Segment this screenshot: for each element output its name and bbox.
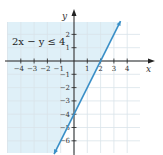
- y-tick-label: 1: [66, 44, 70, 52]
- x-tick-label: −2: [40, 65, 50, 73]
- x-tick-label: 3: [112, 65, 116, 73]
- y-tick-label: 2: [66, 31, 70, 39]
- x-axis-arrow-icon: [148, 59, 155, 64]
- y-axis-label: y: [61, 11, 68, 21]
- x-tick-label: 4: [125, 65, 130, 73]
- inequality-label: 2x − y ≤ 4: [12, 36, 66, 47]
- x-tick-label: 2: [98, 65, 102, 73]
- x-axis-label: x: [146, 64, 151, 74]
- y-axis-arrow-icon: [72, 9, 77, 16]
- x-tick-label: −4: [14, 65, 25, 73]
- x-tick-label: 1: [85, 65, 89, 73]
- y-tick-label: −3: [60, 97, 70, 105]
- y-tick-label: −1: [60, 71, 70, 79]
- y-tick-label: −2: [60, 84, 70, 92]
- x-tick-label: −3: [27, 65, 37, 73]
- graph: −4−3−2−1123421−1−2−3−4−5−6 x y 2x − y ≤ …: [0, 0, 163, 155]
- y-tick-label: −4: [60, 111, 71, 119]
